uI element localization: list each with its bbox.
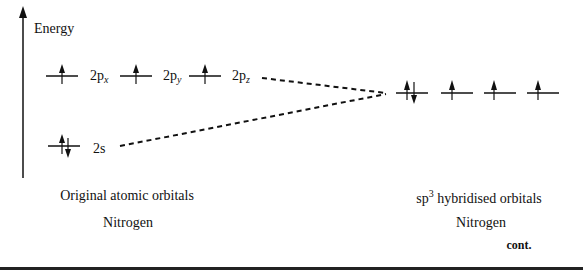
right-element: Nitrogen xyxy=(456,216,506,230)
continued-label: cont. xyxy=(507,239,532,251)
spin-down-arrow-icon xyxy=(411,95,417,104)
label-sub: x xyxy=(104,74,108,85)
label-sub: z xyxy=(246,74,250,85)
spin-down-arrow-icon xyxy=(65,149,71,158)
hybrid-orbital-2 xyxy=(441,80,473,100)
label-2pz: 2pz xyxy=(232,69,250,85)
label-2px: 2px xyxy=(90,69,108,85)
orbital-2py xyxy=(120,64,152,84)
spin-up-arrow-icon xyxy=(202,64,208,73)
label-main: 2p xyxy=(163,68,177,83)
orbital-2s xyxy=(48,134,80,158)
label-sub: y xyxy=(177,74,181,85)
label-2py: 2py xyxy=(163,69,181,85)
caption-suffix: hybridised orbitals xyxy=(434,191,542,206)
hybrid-orbital-3 xyxy=(484,80,516,100)
orbital-2pz xyxy=(189,64,221,84)
dashed-connector-2s xyxy=(120,94,386,146)
spin-up-arrow-icon xyxy=(404,80,410,90)
bottom-rule xyxy=(0,267,583,270)
left-caption: Original atomic orbitals xyxy=(60,189,194,203)
orbital-2px xyxy=(46,64,78,84)
label-main: 2p xyxy=(90,68,104,83)
dashed-connector-2p xyxy=(262,78,386,93)
caption-prefix: sp xyxy=(416,191,428,206)
spin-up-arrow-icon xyxy=(535,80,541,90)
orbital-diagram xyxy=(0,0,583,276)
left-element: Nitrogen xyxy=(103,216,153,230)
hybrid-orbital-1 xyxy=(396,80,428,104)
spin-up-arrow-icon xyxy=(59,134,65,143)
label-main: 2p xyxy=(232,68,246,83)
spin-up-arrow-icon xyxy=(59,64,65,73)
label-2s: 2s xyxy=(93,142,105,156)
right-caption: sp3 hybridised orbitals xyxy=(416,189,542,206)
spin-up-arrow-icon xyxy=(133,64,139,73)
hybrid-orbital-4 xyxy=(527,80,559,100)
energy-axis-arrow xyxy=(19,6,27,178)
spin-up-arrow-icon xyxy=(491,80,497,90)
energy-axis-label: Energy xyxy=(34,22,74,36)
spin-up-arrow-icon xyxy=(449,80,455,90)
